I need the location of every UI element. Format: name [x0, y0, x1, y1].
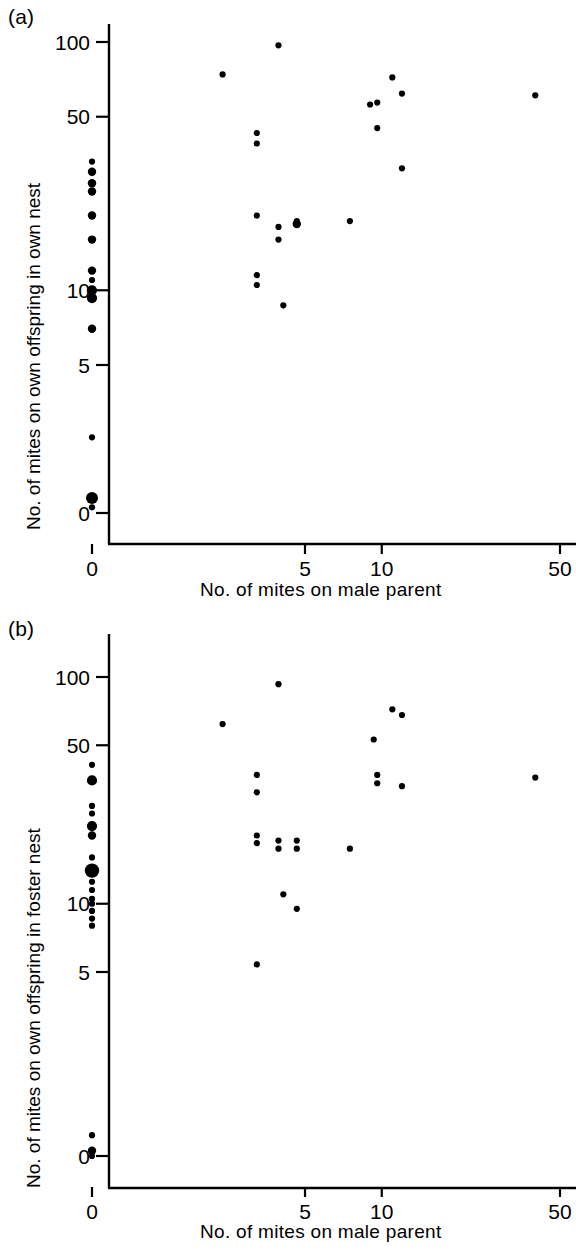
scatter-point	[254, 130, 260, 136]
scatter-point	[254, 212, 260, 218]
y-tick-label: 10	[67, 279, 90, 302]
x-tick-label: 50	[548, 1200, 571, 1223]
scatter-point	[254, 772, 260, 778]
scatter-point	[294, 906, 300, 912]
scatter-point	[254, 961, 260, 967]
scatter-point	[254, 272, 260, 278]
scatter-point	[89, 923, 95, 929]
scatter-point	[254, 832, 260, 838]
scatter-point	[220, 721, 226, 727]
y-tick-label: 5	[78, 961, 90, 984]
scatter-point	[89, 277, 95, 283]
scatter-point	[280, 302, 286, 308]
x-tick-label: 10	[370, 557, 393, 580]
scatter-point	[275, 681, 281, 687]
x-tick-label: 0	[86, 1200, 98, 1223]
panel-a-plot-area: 051050100051050	[0, 0, 576, 610]
scatter-point	[399, 712, 405, 718]
scatter-point	[88, 266, 96, 274]
scatter-point	[86, 492, 98, 504]
scatter-point	[293, 220, 301, 228]
scatter-point	[275, 224, 281, 230]
panel-a: (a) No. of mites on own offspring in own…	[0, 0, 576, 610]
scatter-point	[89, 1132, 95, 1138]
scatter-point	[389, 706, 395, 712]
scatter-point	[89, 504, 95, 510]
scatter-point	[294, 846, 300, 852]
scatter-point	[89, 908, 95, 914]
scatter-point	[275, 846, 281, 852]
scatter-point	[374, 125, 380, 131]
scatter-point	[87, 821, 97, 831]
scatter-point	[374, 100, 380, 106]
scatter-point	[254, 140, 260, 146]
y-tick-label: 0	[78, 502, 90, 525]
y-tick-label: 0	[78, 1145, 90, 1168]
scatter-point	[347, 846, 353, 852]
scatter-point	[367, 101, 373, 107]
panel-b-data-points	[85, 681, 539, 1159]
figure-scatter-panels: (a) No. of mites on own offspring in own…	[0, 0, 576, 1250]
scatter-point	[399, 165, 405, 171]
scatter-point	[89, 915, 95, 921]
scatter-point	[280, 891, 286, 897]
y-tick-label: 5	[78, 354, 90, 377]
scatter-point	[88, 831, 96, 839]
scatter-point	[87, 775, 97, 785]
y-tick-label: 100	[55, 666, 90, 689]
scatter-point	[254, 282, 260, 288]
x-tick-label: 0	[86, 557, 98, 580]
x-tick-label: 50	[548, 557, 571, 580]
scatter-point	[89, 158, 95, 164]
scatter-point	[89, 810, 95, 816]
scatter-point	[220, 71, 226, 77]
scatter-point	[89, 1153, 95, 1159]
scatter-point	[347, 218, 353, 224]
panel-a-ticks: 051050100051050	[55, 31, 572, 581]
y-tick-label: 100	[55, 31, 90, 54]
panel-b-ticks: 051050100051050	[55, 666, 572, 1224]
scatter-point	[399, 90, 405, 96]
scatter-point	[89, 879, 95, 885]
scatter-point	[371, 736, 377, 742]
scatter-point	[88, 325, 96, 333]
panel-b: (b) No. of mites on own offspring in fos…	[0, 610, 576, 1250]
scatter-point	[88, 187, 96, 195]
scatter-point	[275, 42, 281, 48]
scatter-point	[254, 789, 260, 795]
panel-b-plot-area: 051050100051050	[0, 610, 576, 1250]
scatter-point	[275, 236, 281, 242]
scatter-point	[89, 803, 95, 809]
y-tick-label: 50	[67, 105, 90, 128]
scatter-point	[399, 783, 405, 789]
scatter-point	[374, 780, 380, 786]
scatter-point	[85, 863, 99, 877]
scatter-point	[89, 762, 95, 768]
y-tick-label: 50	[67, 734, 90, 757]
scatter-point	[389, 74, 395, 80]
x-tick-label: 5	[299, 557, 311, 580]
scatter-point	[89, 854, 95, 860]
x-tick-label: 10	[370, 1200, 393, 1223]
scatter-point	[87, 293, 97, 303]
scatter-point	[88, 235, 96, 243]
scatter-point	[294, 837, 300, 843]
scatter-point	[88, 179, 96, 187]
scatter-point	[532, 775, 538, 781]
scatter-point	[275, 837, 281, 843]
scatter-point	[89, 901, 95, 907]
y-tick-label: 10	[67, 892, 90, 915]
scatter-point	[88, 211, 96, 219]
scatter-point	[89, 434, 95, 440]
x-tick-label: 5	[299, 1200, 311, 1223]
scatter-point	[254, 840, 260, 846]
scatter-point	[374, 772, 380, 778]
panel-a-data-points	[86, 42, 538, 510]
scatter-point	[532, 92, 538, 98]
scatter-point	[89, 887, 95, 893]
scatter-point	[88, 168, 96, 176]
